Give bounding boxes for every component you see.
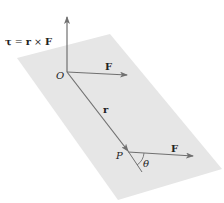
force-at-origin-label: F <box>105 61 112 72</box>
point-label: P <box>115 150 123 161</box>
torque-diagram: τ = r × F O F r P F θ <box>0 0 224 203</box>
torque-equation-label: τ = r × F <box>5 36 52 47</box>
force-at-point-label: F <box>171 143 178 154</box>
angle-label: θ <box>143 158 149 169</box>
plane <box>17 34 222 200</box>
origin-label: O <box>56 70 64 81</box>
position-vector-label: r <box>103 104 109 115</box>
